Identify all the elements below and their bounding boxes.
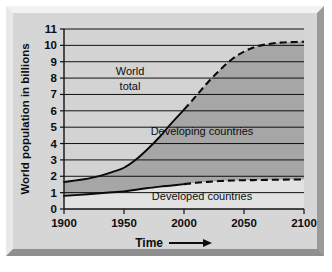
annotation-world-total-line1: World	[116, 65, 145, 77]
y-tick-label: 7	[51, 88, 57, 100]
y-tick-label: 6	[51, 105, 57, 117]
annotation-world-total-line2: total	[120, 80, 141, 92]
y-tick-label: 10	[44, 39, 57, 51]
arrow-right-icon	[169, 239, 212, 247]
y-tick-label: 1	[51, 187, 58, 199]
y-tick-label: 11	[45, 23, 58, 35]
population-area-chart: 01234567891011 19001950200020502100 Worl…	[13, 13, 317, 249]
annotation-developed-countries: Developed countries	[152, 190, 253, 202]
x-tick-label: 2050	[231, 217, 257, 229]
y-tick-label: 9	[51, 56, 57, 68]
x-axis-ticks	[64, 209, 304, 214]
x-axis-title-group: Time	[135, 236, 212, 249]
y-tick-label: 3	[51, 154, 57, 166]
x-axis-title: Time	[135, 236, 163, 249]
x-tick-label: 1900	[51, 217, 77, 229]
y-tick-label: 8	[51, 72, 58, 84]
y-tick-label: 0	[51, 203, 57, 215]
chart-figure: 01234567891011 19001950200020502100 Worl…	[0, 0, 332, 272]
y-tick-label: 5	[51, 121, 58, 133]
x-tick-label: 1950	[111, 217, 137, 229]
x-tick-label: 2100	[291, 217, 317, 229]
annotation-developing-countries: Developing countries	[151, 125, 254, 137]
x-tick-label: 2000	[171, 217, 197, 229]
area-bands	[64, 29, 304, 209]
y-axis-title: World population in billions	[19, 43, 31, 194]
x-axis-tick-labels: 19001950200020502100	[51, 217, 317, 229]
y-axis-tick-labels: 01234567891011	[44, 23, 57, 215]
y-tick-label: 4	[51, 138, 58, 150]
y-tick-label: 2	[51, 170, 57, 182]
